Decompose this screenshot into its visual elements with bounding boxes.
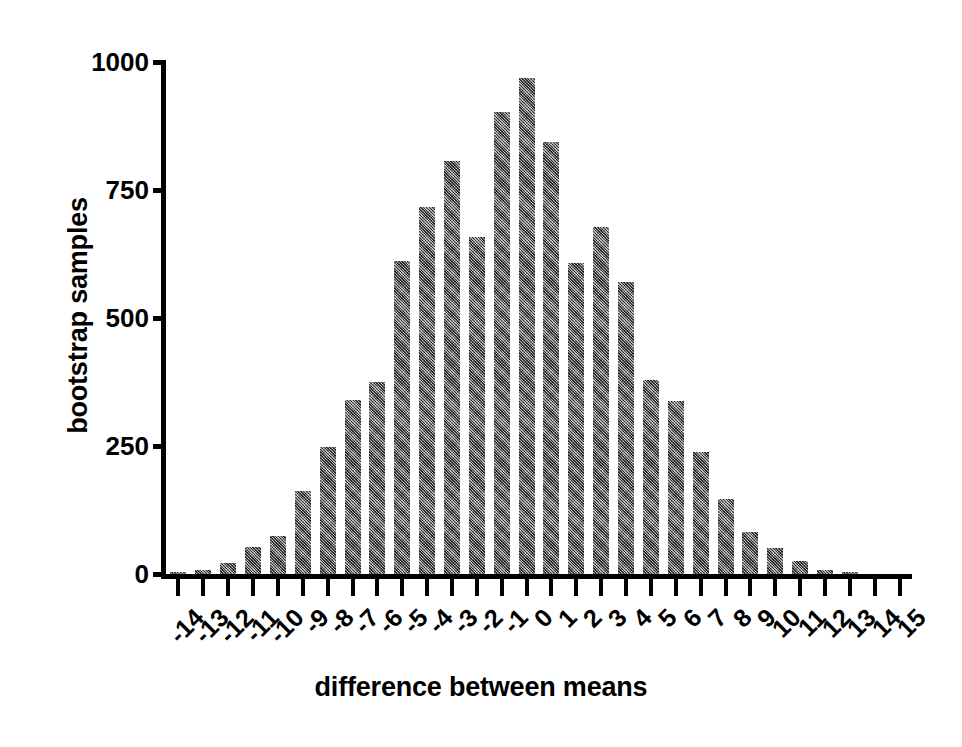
bar (643, 380, 659, 574)
bar (245, 547, 261, 574)
bar (718, 499, 734, 574)
x-axis-tick-label: 7 (702, 603, 732, 633)
x-axis-tick (674, 579, 678, 596)
x-axis-tick (226, 579, 230, 596)
bar (519, 78, 535, 574)
x-axis-tick (873, 579, 877, 596)
bar (345, 400, 361, 574)
x-axis-tick (748, 579, 752, 596)
bar (817, 570, 833, 574)
bar (593, 227, 609, 574)
x-axis-tick (823, 579, 827, 596)
x-axis-tick (276, 579, 280, 596)
x-axis-tick (251, 579, 255, 596)
x-axis-tick (425, 579, 429, 596)
y-axis-tick-label: 750 (39, 175, 149, 206)
bar (618, 282, 634, 574)
y-axis-tick (153, 60, 166, 65)
x-axis-tick (798, 579, 802, 596)
x-axis-tick (574, 579, 578, 596)
x-axis-title: difference between means (0, 672, 962, 703)
x-axis-tick (176, 579, 180, 596)
x-axis-tick-label: 0 (528, 603, 558, 633)
y-axis-tick (153, 316, 166, 321)
x-axis-tick (549, 579, 553, 596)
x-axis-tick-label: 4 (627, 603, 657, 633)
x-axis-tick (500, 579, 504, 596)
bar (320, 447, 336, 574)
x-axis-tick (724, 579, 728, 596)
x-axis-tick (525, 579, 529, 596)
bar (444, 161, 460, 574)
x-axis-tick (201, 579, 205, 596)
bar (170, 572, 186, 574)
bar (543, 142, 559, 574)
x-axis-tick (848, 579, 852, 596)
bar (270, 536, 286, 574)
y-axis-tick-label: 1000 (39, 47, 149, 78)
x-axis-tick (599, 579, 603, 596)
bar (792, 561, 808, 574)
bar (419, 207, 435, 574)
x-axis-tick-label: 3 (602, 603, 632, 633)
x-axis-tick (898, 579, 902, 596)
x-axis-tick-label: -1 (497, 603, 533, 639)
bar (767, 548, 783, 574)
x-axis-tick-label: 2 (577, 603, 607, 633)
bar-chart-figure: bootstrap samples 02505007501000 -14-13-… (0, 0, 962, 747)
x-axis-tick-label: 8 (727, 603, 757, 633)
bar (742, 532, 758, 574)
bar (394, 261, 410, 574)
x-axis-tick (649, 579, 653, 596)
bar (494, 112, 510, 574)
x-axis-tick (351, 579, 355, 596)
x-axis-tick-label: 15 (891, 603, 931, 643)
x-axis-tick (699, 579, 703, 596)
bar (220, 563, 236, 574)
bar (295, 491, 311, 574)
y-axis-tick-label: 500 (39, 303, 149, 334)
y-axis-tick-label: 0 (39, 559, 149, 590)
x-axis-tick (326, 579, 330, 596)
x-axis-tick-label: 6 (677, 603, 707, 633)
bar (842, 572, 858, 574)
y-axis-tick-label: 250 (39, 431, 149, 462)
x-axis-tick-label: 5 (652, 603, 682, 633)
x-axis-tick (624, 579, 628, 596)
plot-area: 02505007501000 -14-13-12-11-10-9-8-7-6-5… (166, 62, 912, 574)
bar (693, 452, 709, 574)
x-axis-tick (450, 579, 454, 596)
bar (568, 263, 584, 574)
bar (469, 237, 485, 574)
bar (195, 570, 211, 574)
y-axis-tick (153, 572, 166, 577)
x-axis-tick (400, 579, 404, 596)
x-axis-tick (773, 579, 777, 596)
bar (369, 382, 385, 574)
y-axis-tick (153, 188, 166, 193)
x-axis-tick-label: 1 (553, 603, 583, 633)
x-axis-tick (475, 579, 479, 596)
bar (668, 401, 684, 574)
x-axis-tick (375, 579, 379, 596)
x-axis-tick (301, 579, 305, 596)
y-axis-tick (153, 444, 166, 449)
